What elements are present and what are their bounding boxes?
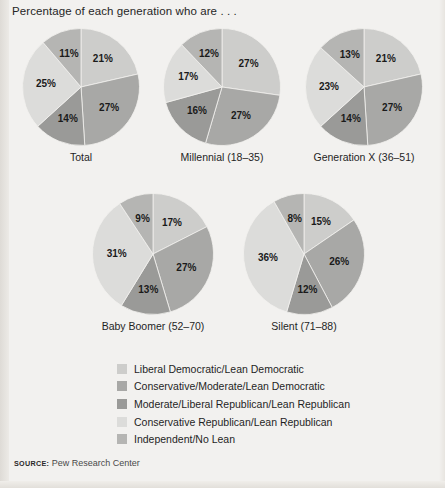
legend-label: Independent/No Lean xyxy=(134,433,235,445)
slice-value-label: 27% xyxy=(239,58,259,69)
slice-value-label: 14% xyxy=(58,113,78,124)
pie-chart-caption: Baby Boomer (52–70) xyxy=(92,320,214,332)
slice-value-label: 13% xyxy=(138,284,158,295)
slice-value-label: 27% xyxy=(99,102,119,113)
pie-wrap: 21%27%14%25%11% xyxy=(22,28,140,146)
pie-wrap: 27%27%16%17%12% xyxy=(163,28,281,146)
pie-wrap: 21%27%14%23%13% xyxy=(305,28,423,146)
source-value: Pew Research Center xyxy=(52,458,140,468)
slice-value-label: 12% xyxy=(298,284,318,295)
page-edge-left xyxy=(0,0,9,488)
page-edge-bottom xyxy=(0,481,445,488)
slice-value-label: 11% xyxy=(59,48,79,59)
pie-chart-generation-x: 21%27%14%23%13%Generation X (36–51) xyxy=(305,28,423,163)
slice-value-label: 31% xyxy=(107,248,127,259)
legend-label: Conservative/Moderate/Lean Democratic xyxy=(134,380,325,392)
legend-swatch-icon xyxy=(117,381,127,391)
page-edge-right xyxy=(439,0,445,488)
legend-swatch-icon xyxy=(117,417,127,427)
pie-wrap: 17%27%13%31%9% xyxy=(92,193,214,315)
legend-item: Conservative/Moderate/Lean Democratic xyxy=(117,378,350,396)
slice-value-label: 14% xyxy=(341,113,361,124)
pie-chart-millennial: 27%27%16%17%12%Millennial (18–35) xyxy=(163,28,281,163)
slice-value-label: 16% xyxy=(187,105,207,116)
legend-swatch-icon xyxy=(117,434,127,444)
page-title: Percentage of each generation who are . … xyxy=(12,5,237,17)
source-label: SOURCE: xyxy=(14,459,49,468)
legend-item: Independent/No Lean xyxy=(117,430,350,448)
slice-value-label: 27% xyxy=(176,262,196,273)
pie-chart-caption: Generation X (36–51) xyxy=(305,151,423,163)
pie-chart-silent: 15%26%12%36%8%Silent (71–88) xyxy=(243,193,365,332)
slice-value-label: 36% xyxy=(258,252,278,263)
slice-value-label: 27% xyxy=(382,102,402,113)
slice-value-label: 21% xyxy=(376,53,396,64)
chart-page: Percentage of each generation who are . … xyxy=(0,0,445,488)
legend-label: Moderate/Liberal Republican/Lean Republi… xyxy=(134,398,350,410)
slice-value-label: 12% xyxy=(199,48,219,59)
legend-label: Liberal Democratic/Lean Democratic xyxy=(134,363,304,375)
pie-chart-caption: Millennial (18–35) xyxy=(163,151,281,163)
pie-chart-total: 21%27%14%25%11%Total xyxy=(22,28,140,163)
slice-value-label: 25% xyxy=(36,78,56,89)
pie-svg: 17%27%13%31%9% xyxy=(92,193,214,315)
slice-value-label: 9% xyxy=(135,213,150,224)
pie-svg: 21%27%14%25%11% xyxy=(22,28,140,146)
slice-value-label: 21% xyxy=(93,53,113,64)
legend-item: Liberal Democratic/Lean Democratic xyxy=(117,360,350,378)
pie-chart-baby-boomer: 17%27%13%31%9%Baby Boomer (52–70) xyxy=(92,193,214,332)
pie-svg: 21%27%14%23%13% xyxy=(305,28,423,146)
pie-svg: 15%26%12%36%8% xyxy=(243,193,365,315)
slice-value-label: 26% xyxy=(329,256,349,267)
pie-svg: 27%27%16%17%12% xyxy=(163,28,281,146)
slice-value-label: 8% xyxy=(287,213,302,224)
slice-value-label: 27% xyxy=(231,110,251,121)
source-note: SOURCE: Pew Research Center xyxy=(14,458,140,468)
slice-value-label: 23% xyxy=(319,81,339,92)
legend-swatch-icon xyxy=(117,364,127,374)
slice-value-label: 13% xyxy=(340,49,360,60)
slice-value-label: 15% xyxy=(311,216,331,227)
legend-item: Moderate/Liberal Republican/Lean Republi… xyxy=(117,395,350,413)
legend-item: Conservative Republican/Lean Republican xyxy=(117,413,350,431)
slice-value-label: 17% xyxy=(162,217,182,228)
legend-label: Conservative Republican/Lean Republican xyxy=(134,416,332,428)
legend: Liberal Democratic/Lean DemocraticConser… xyxy=(117,360,350,448)
pie-chart-caption: Total xyxy=(22,151,140,163)
legend-swatch-icon xyxy=(117,399,127,409)
pie-wrap: 15%26%12%36%8% xyxy=(243,193,365,315)
pie-chart-caption: Silent (71–88) xyxy=(243,320,365,332)
slice-value-label: 17% xyxy=(178,71,198,82)
